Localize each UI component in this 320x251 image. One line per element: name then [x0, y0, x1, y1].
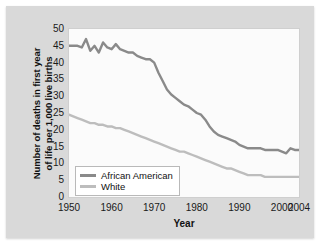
y-tick-label: 0	[44, 192, 64, 202]
legend-label: African American	[101, 170, 173, 181]
chart-screenshot: Number of deaths in first year of life p…	[0, 0, 320, 251]
y-tick-label: 20	[44, 125, 64, 135]
chart-legend: African AmericanWhite	[75, 166, 180, 196]
x-tick-label: 2004	[288, 202, 310, 213]
y-tick-label: 10	[44, 158, 64, 168]
y-tick-label: 40	[44, 58, 64, 68]
series-line	[69, 39, 299, 153]
y-tick-label: 15	[44, 142, 64, 152]
legend-swatch	[80, 185, 96, 188]
x-tick-label: 1950	[58, 202, 80, 213]
legend-item: African American	[80, 170, 173, 181]
y-tick-label: 25	[44, 108, 64, 118]
y-tick-label: 5	[44, 175, 64, 185]
y-tick-label: 30	[44, 91, 64, 101]
chart-panel: Number of deaths in first year of life p…	[6, 6, 314, 238]
legend-label: White	[101, 181, 125, 192]
x-axis-tick-labels: 1950196019701980199020002004	[68, 202, 308, 216]
x-tick-label: 1960	[100, 202, 122, 213]
y-tick-label: 45	[44, 41, 64, 51]
legend-item: White	[80, 181, 173, 192]
y-axis-title-line1: Number of deaths in first year	[31, 48, 42, 180]
x-tick-label: 1980	[186, 202, 208, 213]
legend-swatch	[80, 174, 96, 177]
y-tick-label: 50	[44, 24, 64, 34]
x-tick-label: 1990	[228, 202, 250, 213]
x-axis-title: Year	[68, 218, 300, 229]
y-tick-label: 35	[44, 74, 64, 84]
y-axis-tick-labels: 50454035302520151050	[42, 28, 64, 198]
x-tick-label: 1970	[143, 202, 165, 213]
